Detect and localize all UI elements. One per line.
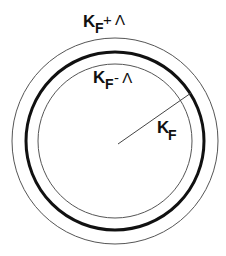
fermi-surface-diagram: K F + Λ K F - Λ K F [0,0,226,256]
outer-label-op: + Λ [103,11,125,28]
outer-circle-label: K F + Λ [83,11,125,36]
radius-line [118,93,191,144]
inner-label-sub: F [105,76,114,92]
inner-label-op: - Λ [114,69,132,86]
inner-circle-label: K F - Λ [93,68,132,92]
radius-label: K F [157,118,177,143]
radius-label-sub: F [168,127,177,143]
